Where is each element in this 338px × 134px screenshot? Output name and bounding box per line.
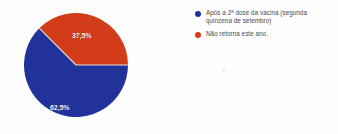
legend-item-vaccine-second-dose[interactable]: Após a 2ª dose da vacina (segunda quinze… xyxy=(195,9,338,26)
scan-artifact-speck xyxy=(222,68,225,73)
legend-item-no-return-this-year[interactable]: Não retorna este ano. xyxy=(195,30,338,38)
chart-legend: Após a 2ª dose da vacina (segunda quinze… xyxy=(195,9,338,42)
pie-slice-red-value-label: 37,5% xyxy=(72,32,91,39)
legend-label-no-return-this-year: Não retorna este ano. xyxy=(206,30,268,38)
pie-svg xyxy=(18,6,138,128)
legend-label-vaccine-second-dose: Após a 2ª dose da vacina (segunda quinze… xyxy=(206,9,332,26)
legend-marker-red-icon xyxy=(195,32,201,38)
legend-marker-blue-icon xyxy=(195,11,201,17)
pie-slice-blue-value-label: 62,5% xyxy=(50,104,69,111)
pie-chart-graphic: 37,5% 62,5% xyxy=(18,6,138,128)
pie-chart-figure: 37,5% 62,5% Após a 2ª dose da vacina (se… xyxy=(0,0,338,134)
